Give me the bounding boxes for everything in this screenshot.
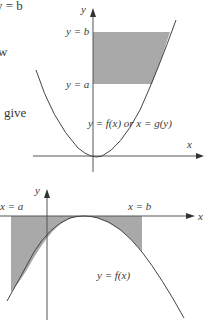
margin-text-top: y = b: [0, 0, 23, 13]
top-y-axis-label: y: [80, 3, 86, 15]
bottom-shaded-region-right: [85, 216, 142, 252]
top-figure: y x y = b y = a y = f(x) or x = g(y): [33, 3, 204, 172]
margin-text-lower: give: [4, 105, 27, 120]
bottom-figure: y x x = a x = b y = f(x): [0, 184, 203, 320]
bottom-x-axis-label: x: [197, 210, 203, 222]
bottom-right-bound-label: x = b: [127, 200, 152, 212]
top-shaded-region: [93, 32, 170, 84]
bottom-y-axis-label: y: [34, 184, 40, 196]
top-x-axis-label: x: [186, 138, 192, 150]
top-upper-bound-label: y = b: [65, 25, 90, 37]
bottom-x-axis-arrow-icon: [186, 213, 195, 219]
figure-canvas: y = b w give y x y = b y = a y = f(x) or…: [0, 0, 210, 330]
bottom-shaded-region-left: [11, 216, 85, 292]
bottom-left-bound-label: x = a: [0, 200, 24, 212]
bottom-y-axis-arrow-icon: [44, 189, 50, 198]
top-lower-bound-label: y = a: [65, 78, 90, 90]
margin-text-middle: w: [0, 44, 8, 59]
top-y-axis-arrow-icon: [90, 8, 96, 17]
top-x-axis-arrow-icon: [196, 153, 204, 159]
bottom-curve-label: y = f(x): [96, 269, 130, 282]
top-curve-label: y = f(x) or x = g(y): [87, 117, 172, 130]
